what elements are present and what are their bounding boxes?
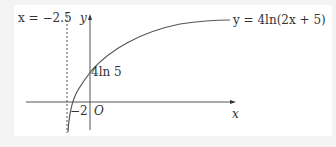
x-intercept-label: −2 xyxy=(70,105,88,117)
curve-label: y = 4ln(2x + 5) xyxy=(233,14,326,26)
x-axis-arrow-icon xyxy=(230,100,236,104)
y-axis-label: y xyxy=(80,12,87,24)
y-intercept-label: 4ln 5 xyxy=(91,66,122,78)
origin-label: O xyxy=(94,105,104,117)
y-axis-arrow-icon xyxy=(88,14,92,20)
asymptote-label: x = −2.5 xyxy=(18,12,72,24)
x-axis-label: x xyxy=(232,108,239,120)
